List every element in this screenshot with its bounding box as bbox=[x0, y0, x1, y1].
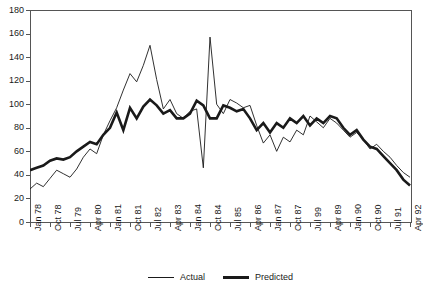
y-tick-120: 120 bbox=[9, 76, 24, 85]
x-tick-mark bbox=[130, 222, 131, 227]
legend-label-predicted: Predicted bbox=[255, 272, 293, 282]
chart-legend: Actual Predicted bbox=[148, 272, 293, 282]
x-tick-mark bbox=[210, 222, 211, 227]
x-tick-mark bbox=[170, 222, 171, 227]
legend-label-actual: Actual bbox=[180, 272, 205, 282]
y-tick-20: 20 bbox=[14, 194, 24, 203]
y-tick-40: 40 bbox=[14, 170, 24, 179]
legend-swatch-predicted bbox=[223, 276, 249, 279]
plot-area bbox=[30, 10, 411, 222]
x-tick-mark bbox=[150, 222, 151, 227]
x-tick-mark bbox=[50, 222, 51, 227]
plot-border-right bbox=[411, 10, 412, 223]
x-tick-mark bbox=[30, 222, 31, 227]
x-tick-mark bbox=[290, 222, 291, 227]
x-tick-mark bbox=[370, 222, 371, 227]
x-tick-mark bbox=[230, 222, 231, 227]
x-tick-mark bbox=[390, 222, 391, 227]
series-line-predicted bbox=[30, 100, 410, 186]
x-tick-label: Apr 92 bbox=[414, 204, 423, 231]
x-tick-mark bbox=[410, 222, 411, 227]
x-tick-mark bbox=[70, 222, 71, 227]
y-tick-180: 180 bbox=[9, 6, 24, 15]
legend-entry-predicted: Predicted bbox=[223, 272, 293, 282]
y-tick-60: 60 bbox=[14, 147, 24, 156]
y-tick-100: 100 bbox=[9, 100, 24, 109]
series-lines bbox=[30, 10, 411, 222]
y-tick-0: 0 bbox=[19, 218, 24, 227]
legend-swatch-actual bbox=[148, 277, 174, 278]
x-tick-mark bbox=[350, 222, 351, 227]
x-tick-mark bbox=[90, 222, 91, 227]
y-tick-140: 140 bbox=[9, 53, 24, 62]
y-tick-80: 80 bbox=[14, 123, 24, 132]
x-tick-mark bbox=[190, 222, 191, 227]
legend-entry-actual: Actual bbox=[148, 272, 205, 282]
x-tick-mark bbox=[250, 222, 251, 227]
x-tick-mark bbox=[310, 222, 311, 227]
y-tick-160: 160 bbox=[9, 29, 24, 38]
x-tick-mark bbox=[330, 222, 331, 227]
x-tick-mark bbox=[110, 222, 111, 227]
x-tick-mark bbox=[270, 222, 271, 227]
